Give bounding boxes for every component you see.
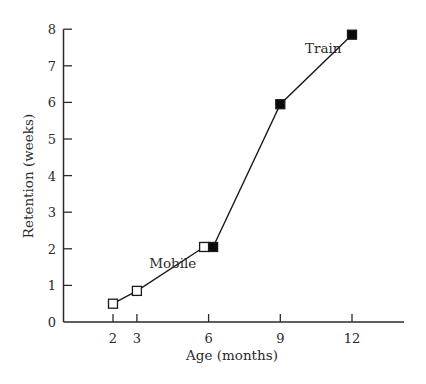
y-tick-label: 8 bbox=[48, 22, 56, 37]
y-axis-label: Retention (weeks) bbox=[20, 114, 36, 238]
annotation-mobile: Mobile bbox=[149, 255, 196, 271]
y-tick-label: 2 bbox=[48, 242, 56, 257]
x-tick-label: 2 bbox=[109, 331, 117, 346]
x-tick-label: 9 bbox=[276, 331, 284, 346]
x-tick-label: 6 bbox=[204, 331, 212, 346]
y-tick-label: 0 bbox=[48, 315, 56, 330]
x-axis-label: Age (months) bbox=[185, 347, 278, 363]
train-marker bbox=[209, 242, 218, 251]
y-tick-label: 7 bbox=[48, 59, 56, 74]
y-tick-label: 1 bbox=[48, 278, 56, 293]
mobile-marker bbox=[109, 299, 118, 308]
axes: 012345678236912 bbox=[48, 22, 404, 346]
y-tick-label: 3 bbox=[48, 205, 56, 220]
train-marker bbox=[348, 30, 357, 39]
train-line bbox=[213, 35, 352, 247]
annotations: MobileTrain bbox=[149, 40, 342, 272]
mobile-marker bbox=[132, 286, 141, 295]
x-tick-label: 3 bbox=[133, 331, 141, 346]
series-markers bbox=[109, 30, 357, 308]
retention-chart: 012345678236912 Age (months) Retention (… bbox=[0, 0, 426, 384]
train-marker bbox=[276, 100, 285, 109]
y-tick-label: 5 bbox=[48, 132, 56, 147]
annotation-train: Train bbox=[305, 40, 342, 56]
y-tick-label: 6 bbox=[48, 95, 56, 110]
mobile-marker bbox=[200, 242, 209, 251]
y-tick-label: 4 bbox=[48, 169, 56, 184]
x-tick-label: 12 bbox=[344, 331, 361, 346]
